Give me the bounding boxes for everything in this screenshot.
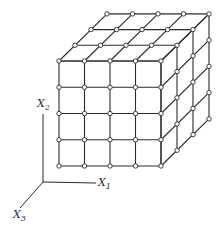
lattice-node bbox=[175, 43, 179, 47]
lattice-node bbox=[105, 12, 109, 16]
lattice-node bbox=[149, 43, 153, 47]
x3-axis-line bbox=[20, 182, 43, 208]
lattice-node bbox=[89, 27, 93, 31]
lattice-node bbox=[133, 164, 137, 168]
lattice-node bbox=[165, 27, 169, 31]
right-face-edge bbox=[161, 93, 209, 140]
lattice-node bbox=[191, 132, 195, 136]
lattice-node bbox=[82, 111, 86, 115]
lattice-node bbox=[156, 12, 160, 16]
lattice-node bbox=[140, 27, 144, 31]
lattice-node bbox=[191, 27, 195, 31]
lattice-node bbox=[82, 59, 86, 63]
lattice-node bbox=[57, 138, 61, 142]
lattice-edges bbox=[59, 14, 209, 166]
lattice-node bbox=[57, 111, 61, 115]
lattice-node bbox=[108, 164, 112, 168]
lattice-node bbox=[207, 64, 211, 68]
lattice-node bbox=[108, 85, 112, 89]
right-face-edge bbox=[161, 66, 209, 113]
top-face-edge bbox=[59, 14, 107, 61]
lattice-node bbox=[133, 85, 137, 89]
lattice-node bbox=[207, 38, 211, 42]
lattice-node bbox=[108, 59, 112, 63]
lattice-node bbox=[159, 59, 163, 63]
lattice-node bbox=[82, 138, 86, 142]
lattice-node bbox=[175, 96, 179, 100]
right-face-edge bbox=[161, 40, 209, 87]
x2-axis-label: X2 bbox=[36, 97, 50, 112]
lattice-node bbox=[82, 85, 86, 89]
lattice-node bbox=[130, 12, 134, 16]
lattice-node bbox=[73, 43, 77, 47]
lattice-node bbox=[108, 138, 112, 142]
lattice-node bbox=[191, 54, 195, 58]
top-face-edge bbox=[136, 14, 184, 61]
lattice-node bbox=[181, 12, 185, 16]
coordinate-axes: X1 X2 X3 bbox=[12, 97, 111, 223]
x1-axis-line bbox=[43, 182, 96, 183]
right-face-edge bbox=[161, 119, 209, 166]
lattice-node bbox=[114, 27, 118, 31]
lattice-node bbox=[133, 138, 137, 142]
lattice-node bbox=[108, 111, 112, 115]
x3-axis-label: X3 bbox=[12, 208, 26, 223]
lattice-node bbox=[175, 148, 179, 152]
lattice-node bbox=[57, 164, 61, 168]
lattice-node bbox=[133, 59, 137, 63]
lattice-node bbox=[159, 85, 163, 89]
lattice-node bbox=[159, 111, 163, 115]
lattice-node bbox=[133, 111, 137, 115]
right-face-edge bbox=[161, 14, 209, 61]
lattice-node bbox=[98, 43, 102, 47]
lattice-node bbox=[175, 69, 179, 73]
top-face-edge bbox=[110, 14, 158, 61]
lattice-node bbox=[124, 43, 128, 47]
top-face-edge bbox=[85, 14, 133, 61]
lattice-node bbox=[57, 59, 61, 63]
lattice-node bbox=[207, 90, 211, 94]
lattice-node bbox=[207, 117, 211, 121]
lattice-node bbox=[82, 164, 86, 168]
lattice-node bbox=[57, 85, 61, 89]
lattice-node bbox=[159, 164, 163, 168]
lattice-node bbox=[159, 138, 163, 142]
lattice-node bbox=[191, 80, 195, 84]
lattice-node bbox=[175, 122, 179, 126]
lattice-node bbox=[207, 12, 211, 16]
lattice-node bbox=[191, 106, 195, 110]
cubic-lattice-diagram: X1 X2 X3 bbox=[0, 0, 221, 230]
x1-axis-label: X1 bbox=[97, 176, 111, 191]
